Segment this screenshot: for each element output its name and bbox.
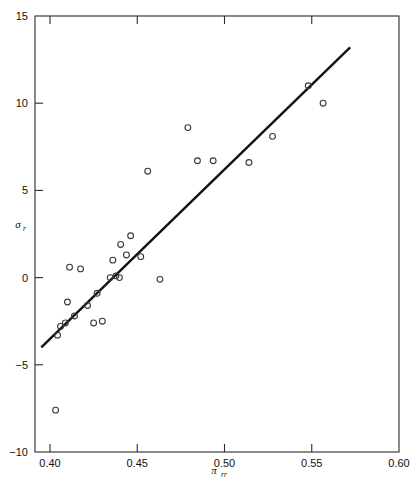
- y-axis-title-subscript: r: [23, 224, 26, 233]
- x-tick-label-4: 0.60: [388, 457, 409, 469]
- y-tick-label-0: −10: [9, 446, 28, 458]
- x-tick-label-1: 0.45: [127, 457, 148, 469]
- y-axis-title: σ: [15, 218, 21, 230]
- x-tick-label-2: 0.50: [214, 457, 235, 469]
- y-tick-label-1: −5: [15, 359, 28, 371]
- x-axis-title: π: [211, 464, 217, 476]
- y-tick-label-5: 15: [16, 10, 28, 22]
- scatter-plot-figure: 0.400.450.500.550.60 −10−5051015 π rr σ …: [0, 0, 420, 481]
- x-tick-label-0: 0.40: [39, 457, 60, 469]
- x-tick-label-3: 0.55: [301, 457, 322, 469]
- y-tick-label-4: 10: [16, 97, 28, 109]
- y-tick-label-3: 5: [22, 184, 28, 196]
- x-axis-title-subscript: rr: [221, 470, 227, 479]
- y-tick-label-2: 0: [22, 272, 28, 284]
- plot-background: [0, 0, 420, 481]
